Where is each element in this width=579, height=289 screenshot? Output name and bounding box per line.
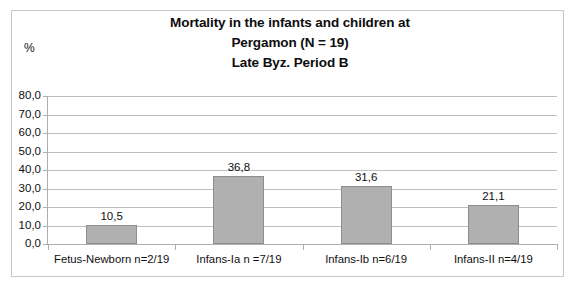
y-axis-tick-label: 80,0 <box>3 90 41 101</box>
x-axis-separator-tick <box>557 244 558 250</box>
y-axis-tick-label: 20,0 <box>3 201 41 212</box>
chart-title-line-3: Late Byz. Period B <box>60 53 520 73</box>
x-axis-separator-tick <box>430 244 431 250</box>
gridline <box>48 170 557 171</box>
chart-title-line-1: Mortality in the infants and children at <box>60 13 520 33</box>
bar <box>213 176 264 244</box>
gridline <box>48 115 557 116</box>
x-axis-categories: Fetus-Newborn n=2/19Infans-Ia n =7/19Inf… <box>48 244 558 278</box>
y-axis-tick-label: 0,0 <box>3 238 41 249</box>
bar-value-label: 10,5 <box>82 210 142 222</box>
gridline <box>48 152 557 153</box>
y-axis-tick-label: 40,0 <box>3 164 41 175</box>
y-axis-tick-label: 30,0 <box>3 183 41 194</box>
chart-title-line-2: Pergamon (N = 19) <box>60 33 520 53</box>
x-axis-category-label: Fetus-Newborn n=2/19 <box>48 253 175 266</box>
y-axis-tick-label: 50,0 <box>3 146 41 157</box>
plot-area <box>48 96 557 244</box>
bar-value-label: 21,1 <box>463 190 523 202</box>
bar <box>86 225 137 244</box>
x-axis-category-label: Infans-Ia n =7/19 <box>175 253 302 266</box>
bar-value-label: 31,6 <box>336 171 396 183</box>
y-axis-tick-label: 10,0 <box>3 220 41 231</box>
bar <box>341 186 392 244</box>
y-axis-tick-label: 60,0 <box>3 127 41 138</box>
gridline <box>48 96 557 97</box>
gridline <box>48 133 557 134</box>
x-axis-category-label: Infans-II n=4/19 <box>430 253 557 266</box>
x-axis-separator-tick <box>175 244 176 250</box>
x-axis-category-label: Infans-Ib n=6/19 <box>303 253 430 266</box>
chart-title: Mortality in the infants and children at… <box>60 13 520 73</box>
y-axis-tick-label: 70,0 <box>3 109 41 120</box>
bar <box>468 205 519 244</box>
x-axis-separator-tick <box>303 244 304 250</box>
y-axis-tick-labels: 0,010,020,030,040,050,060,070,080,0 <box>0 0 41 289</box>
chart-figure: Mortality in the infants and children at… <box>0 0 579 289</box>
x-axis-separator-tick <box>48 244 49 250</box>
bar-value-label: 36,8 <box>209 161 269 173</box>
